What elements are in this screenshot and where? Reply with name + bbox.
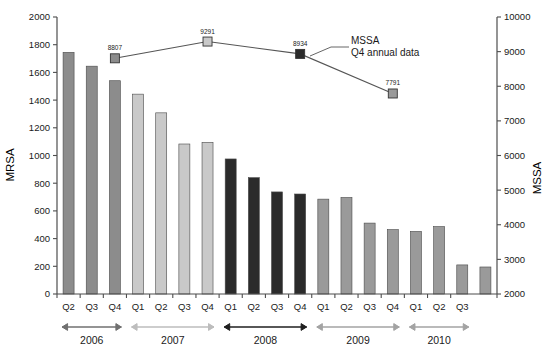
mssa-data-point-2009 [388,89,397,98]
year-groups-group: 20062007200820092010 [62,324,469,346]
bar-2009-Q3 [364,223,375,294]
bar-2007-Q2 [156,113,167,294]
left-tick-label: 200 [34,261,50,272]
bar-2006-Q3 [86,66,97,294]
bar-2007-Q4 [202,142,213,294]
left-tick-label: 2000 [29,11,50,22]
bar-2009-Q4 [387,230,398,294]
bar-2008-Q2 [248,178,259,294]
mssa-legend: MSSA Q4 annual data [310,35,420,58]
left-tick-label: 400 [34,233,50,244]
bar-2006-Q2 [63,52,74,294]
arrow-head-right-icon [394,324,400,331]
right-tick-label: 9000 [504,46,525,57]
year-label-2010: 2010 [427,334,451,346]
x-tick-label-Q4-14: Q4 [386,301,399,312]
legend-label-q4-annual-data: Q4 annual data [351,47,420,58]
mssa-data-label-2006: 8807 [108,44,123,51]
left-tick-label: 600 [34,205,50,216]
arrow-head-left-icon [317,324,323,331]
x-tick-label-Q3-9: Q3 [271,301,284,312]
mssa-data-point-2006 [110,54,119,63]
left-tick-label: 1000 [29,150,50,161]
arrow-head-left-icon [224,324,230,331]
x-tick-label-Q2-12: Q2 [340,301,353,312]
year-label-2007: 2007 [161,334,185,346]
mssa-data-label-2007: 9291 [200,28,215,35]
right-tick-label: 8000 [504,81,525,92]
chart-root: 0200400600800100012001400160018002000 20… [0,0,551,353]
left-tick-label: 800 [34,178,50,189]
right-tick-label: 10000 [504,11,530,22]
bar-2007-Q1 [133,94,144,294]
mssa-data-point-2008 [296,49,305,58]
year-label-2006: 2006 [80,334,104,346]
mssa-data-label-2009: 7791 [386,79,401,86]
arrow-head-left-icon [409,324,415,331]
x-tick-label-Q3-13: Q3 [363,301,376,312]
right-tick-label: 5000 [504,185,525,196]
mssa-data-label-2008: 8934 [293,40,308,47]
x-tick-label-Q3-17: Q3 [456,301,469,312]
caption-fragment [0,346,551,353]
x-tick-label-Q1-11: Q1 [317,301,330,312]
x-tick-label-Q2-8: Q2 [247,301,260,312]
year-label-2009: 2009 [346,334,370,346]
arrow-head-left-icon [132,324,138,331]
x-tick-label-Q4-2: Q4 [109,301,122,312]
bar-2010-Q2 [434,227,445,294]
x-tick-label-Q1-15: Q1 [410,301,423,312]
bar-2006-Q4 [109,81,120,294]
arrow-head-right-icon [209,324,215,331]
right-axis-title: MSSA [531,161,543,194]
right-tick-label: 7000 [504,115,525,126]
bar-series-group [63,52,491,294]
bar-2009-Q2 [341,197,352,294]
left-tick-label: 0 [45,288,50,299]
arrow-head-left-icon [62,324,67,331]
bar-2010-Q3 [457,265,468,294]
x-tick-label-Q3-5: Q3 [178,301,191,312]
bar-2008-Q1 [225,159,236,294]
x-tick-label-Q2-0: Q2 [62,301,75,312]
left-tick-label: 1200 [29,122,50,133]
bar-2009-Q1 [318,199,329,294]
legend-leader-line [310,47,349,56]
right-tick-label: 6000 [504,150,525,161]
bar-2010-Q4 [480,267,491,294]
year-label-2008: 2008 [254,334,278,346]
arrow-head-right-icon [116,324,122,331]
x-tick-label-Q1-3: Q1 [132,301,145,312]
x-tick-label-Q2-16: Q2 [433,301,446,312]
x-tick-label-Q4-10: Q4 [294,301,307,312]
x-tick-label-Q3-1: Q3 [85,301,98,312]
right-tick-label: 4000 [504,219,525,230]
right-tick-label: 2000 [504,288,525,299]
quarter-tick-labels-group: Q2Q3Q4Q1Q2Q3Q4Q1Q2Q3Q4Q1Q2Q3Q4Q1Q2Q3 [57,294,497,312]
mrsa-mssa-combo-chart: 0200400600800100012001400160018002000 20… [0,0,551,353]
x-tick-label-Q4-6: Q4 [201,301,214,312]
bar-2007-Q3 [179,144,190,294]
x-tick-label-Q1-7: Q1 [224,301,237,312]
left-axis-group: 0200400600800100012001400160018002000 [29,11,57,299]
left-tick-label: 1800 [29,39,50,50]
bar-2010-Q1 [410,231,421,294]
legend-label-mssa: MSSA [351,35,380,46]
bar-2008-Q4 [295,194,306,294]
arrow-head-right-icon [301,324,307,331]
x-tick-label-Q2-4: Q2 [155,301,168,312]
right-axis-group: 2000300040005000600070008000900010000 [497,11,530,299]
arrow-head-right-icon [463,324,469,331]
left-tick-label: 1400 [29,95,50,106]
right-tick-label: 3000 [504,254,525,265]
left-axis-title: MRSA [4,148,16,182]
left-tick-label: 1600 [29,67,50,78]
mssa-data-point-2007 [203,37,212,46]
bar-2008-Q3 [272,192,283,294]
